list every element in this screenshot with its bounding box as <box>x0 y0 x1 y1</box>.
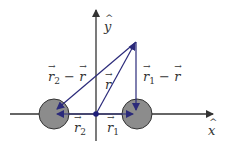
label-r2-minus-r: r2 − r <box>48 70 85 86</box>
y-axis-label: y <box>104 20 111 33</box>
origin-dot <box>93 111 99 117</box>
x-axis-label: x <box>208 124 215 137</box>
label-r1: r1 <box>107 121 119 137</box>
label-r2: r2 <box>74 121 86 137</box>
label-r: r <box>105 78 111 91</box>
label-r1-minus-r: r1 − r <box>143 70 180 86</box>
